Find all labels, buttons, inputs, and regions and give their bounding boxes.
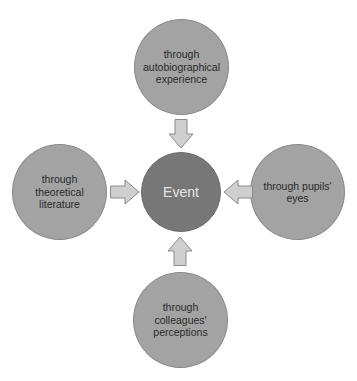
- node-bottom-label: through colleagues' perceptions: [149, 301, 211, 339]
- arrow-left-icon: [223, 179, 253, 205]
- node-right-label: through pupils' eyes: [260, 180, 336, 205]
- node-bottom: through colleagues' perceptions: [133, 272, 228, 368]
- node-top-label: through autobiographical experience: [139, 48, 224, 86]
- node-left-label: through theoretical literature: [31, 173, 87, 211]
- node-top: through autobiographical experience: [134, 19, 229, 115]
- arrow-up-icon: [167, 236, 193, 266]
- node-right: through pupils' eyes: [250, 144, 345, 240]
- center-node-event: Event: [141, 152, 221, 232]
- node-left: through theoretical literature: [12, 144, 107, 240]
- arrow-right-icon: [110, 179, 140, 205]
- center-node-label: Event: [163, 184, 199, 200]
- arrow-down-icon: [168, 119, 194, 149]
